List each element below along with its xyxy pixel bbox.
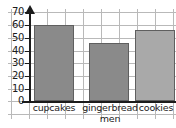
y-tick-label-60: 60 [0,20,24,30]
y-tick-mark [25,25,30,26]
y-tick-mark [25,38,30,39]
y-tick-mark [25,12,30,13]
y-tick-mark [25,51,30,52]
y-tick-label-20: 20 [0,71,24,81]
y-tick-mark [25,63,30,64]
y-tick-label-70: 70 [0,7,24,17]
bar-chart: 70 60 50 40 30 20 10 0 cupcakes gingerbr… [0,0,176,128]
x-tick-label-cupcakes: cupcakes [22,103,86,114]
y-tick-label-40: 40 [0,46,24,56]
bar-cupcakes [34,25,74,101]
y-tick-mark [25,101,30,102]
y-tick-label-10: 10 [0,84,24,94]
y-tick-mark [25,76,30,77]
x-tick-label-cookies: cookies [134,103,176,114]
bar-gingerbread-men [89,43,129,101]
x-tick-label-gingerbread: gingerbread [78,103,142,114]
x-axis-labels: cupcakes gingerbread men cookies [0,103,176,128]
y-tick-label-30: 30 [0,58,24,68]
y-tick-label-50: 50 [0,33,24,43]
bar-cookies [135,30,175,101]
x-tick-label-gingerbread-line2: men [78,114,142,125]
y-tick-mark [25,89,30,90]
